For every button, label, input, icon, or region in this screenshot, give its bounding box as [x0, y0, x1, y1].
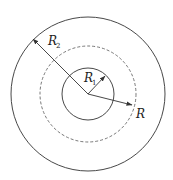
r-arrow [88, 94, 132, 105]
r2-arrow [33, 39, 88, 94]
label-r1: R 1 [83, 71, 96, 87]
label-r2: R 2 [47, 34, 60, 50]
label-r1-sub: 1 [92, 79, 96, 87]
label-r-main: R [135, 107, 145, 121]
label-r2-sub: 2 [56, 42, 60, 50]
label-r: R [135, 107, 145, 121]
concentric-circles-diagram: R 2 R 1 R [0, 0, 173, 180]
